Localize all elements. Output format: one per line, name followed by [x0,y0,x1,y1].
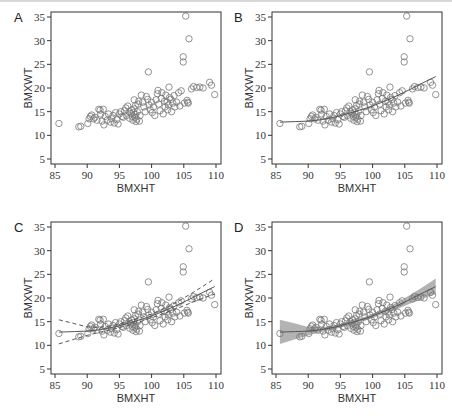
x-tick-label: 100 [143,169,160,181]
y-tick-label: 35 [255,221,267,233]
plot-area: 5101520253035859095100105110 [221,210,447,420]
plot-frame [51,222,221,374]
x-tick-label: 110 [429,169,446,181]
x-tick-label: 105 [397,169,414,181]
y-tick-label: 15 [34,316,46,328]
x-tick-label: 100 [364,169,381,181]
x-tick-label: 85 [50,379,62,391]
y-tick-label: 25 [255,58,267,70]
y-tick-label: 5 [261,363,267,375]
y-tick-label: 20 [34,292,46,304]
y-tick-label: 5 [261,153,267,165]
y-tick-label: 35 [255,11,267,23]
y-tick-label: 20 [34,82,46,94]
x-tick-label: 90 [82,169,94,181]
y-tick-label: 35 [34,11,46,23]
x-tick-label: 95 [114,169,126,181]
y-tick-label: 10 [255,339,267,351]
x-tick-label: 85 [271,379,283,391]
data-points [277,13,439,130]
plot-area: 5101520253035859095100105110 [0,0,226,210]
y-tick-label: 25 [34,58,46,70]
y-tick-label: 15 [255,316,267,328]
x-tick-label: 90 [303,169,315,181]
x-tick-label: 95 [335,379,347,391]
x-tick-label: 90 [82,379,94,391]
x-tick-label: 105 [176,169,193,181]
x-tick-label: 110 [429,379,446,391]
plot-frame [272,12,442,164]
x-tick-label: 100 [364,379,381,391]
data-points [277,223,439,340]
x-tick-label: 95 [114,379,126,391]
y-tick-label: 10 [34,339,46,351]
y-tick-label: 5 [40,153,46,165]
x-tick-label: 85 [50,169,62,181]
y-tick-label: 10 [34,129,46,141]
data-points [56,13,218,130]
y-tick-label: 30 [255,35,267,47]
x-tick-label: 85 [271,169,283,181]
plot-area: 5101520253035859095100105110 [221,0,447,210]
scatter-panel-d: D BMXWT BMXHT 51015202530358590951001051… [221,210,447,420]
y-tick-label: 10 [255,129,267,141]
y-tick-label: 5 [40,363,46,375]
scatter-panel-c: C BMXWT BMXHT 51015202530358590951001051… [0,210,226,420]
plot-frame [51,12,221,164]
x-tick-label: 100 [143,379,160,391]
y-tick-label: 30 [34,245,46,257]
y-tick-label: 15 [34,106,46,118]
y-tick-label: 35 [34,221,46,233]
y-tick-label: 25 [255,268,267,280]
y-tick-label: 25 [34,268,46,280]
x-tick-label: 105 [176,379,193,391]
y-tick-label: 20 [255,292,267,304]
x-tick-label: 95 [335,169,347,181]
y-tick-label: 30 [34,35,46,47]
y-tick-label: 20 [255,82,267,94]
y-tick-label: 15 [255,106,267,118]
x-tick-label: 90 [303,379,315,391]
scatter-panel-a: A BMXWT BMXHT 51015202530358590951001051… [0,0,226,210]
plot-area: 5101520253035859095100105110 [0,210,226,420]
x-tick-label: 105 [397,379,414,391]
scatter-panel-b: B BMXWT BMXHT 51015202530358590951001051… [221,0,447,210]
y-tick-label: 30 [255,245,267,257]
